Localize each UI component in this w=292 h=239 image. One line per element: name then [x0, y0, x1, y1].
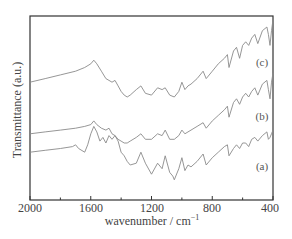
series-line-a	[30, 126, 273, 179]
x-tick-label-400: 400	[261, 201, 279, 216]
series-group	[30, 20, 273, 180]
series-label-a: (a)	[256, 160, 268, 172]
x-tick-label-1600: 1600	[79, 201, 103, 216]
y-axis-label: Transmittance (a.u.)	[10, 62, 25, 159]
series-line-c	[30, 20, 273, 97]
x-axis-label-text: wavenumber / cm	[105, 214, 191, 228]
x-tick-label-800: 800	[203, 201, 221, 216]
x-axis-label-unit-exponent: −1	[191, 213, 200, 222]
x-axis-ticks	[30, 196, 273, 200]
series-label-b: (b)	[256, 110, 269, 122]
series-line-b	[30, 73, 273, 143]
plot-frame	[30, 16, 273, 200]
x-tick-label-1200: 1200	[140, 201, 164, 216]
series-label-c: (c)	[256, 56, 268, 68]
x-tick-label-2000: 2000	[18, 201, 42, 216]
